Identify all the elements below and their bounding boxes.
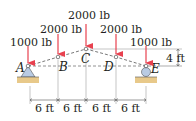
dim-label-CD: 6 ft bbox=[92, 102, 112, 115]
load-label-A: 1000 lb bbox=[10, 36, 52, 49]
node-label-E: E bbox=[150, 62, 160, 76]
node-label-A: A bbox=[15, 61, 25, 75]
dim-label-AB: 6 ft bbox=[35, 102, 55, 115]
load-label-B: 2000 lb bbox=[40, 23, 82, 36]
load-label-E: 1000 lb bbox=[130, 36, 172, 49]
node-label-D: D bbox=[103, 60, 114, 74]
node-label-B: B bbox=[58, 60, 68, 74]
dim-label-DE: 6 ft bbox=[121, 102, 141, 115]
load-label-C: 2000 lb bbox=[68, 9, 110, 22]
joint-E bbox=[144, 64, 148, 68]
dim-vertical-label: 4 ft bbox=[166, 52, 186, 65]
node-label-C: C bbox=[81, 52, 90, 66]
joint-C bbox=[84, 47, 88, 51]
joint-D bbox=[114, 55, 118, 59]
joint-B bbox=[56, 55, 60, 59]
truss-diagram: 4 ft 6 ft 6 ft 6 ft 6 ft A B C D E 1000 … bbox=[0, 0, 196, 121]
dim-label-BC: 6 ft bbox=[63, 102, 83, 115]
load-label-D: 2000 lb bbox=[100, 23, 142, 36]
joint-A bbox=[26, 64, 30, 68]
